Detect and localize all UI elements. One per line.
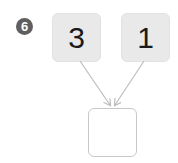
number-box-left: 3 [52,13,101,62]
arrow-down-right-icon [80,61,110,105]
answer-box[interactable] [88,108,137,157]
arrow-down-left-icon [115,61,144,105]
problem-number-badge: 6 [16,18,33,35]
number-box-right: 1 [121,13,170,62]
